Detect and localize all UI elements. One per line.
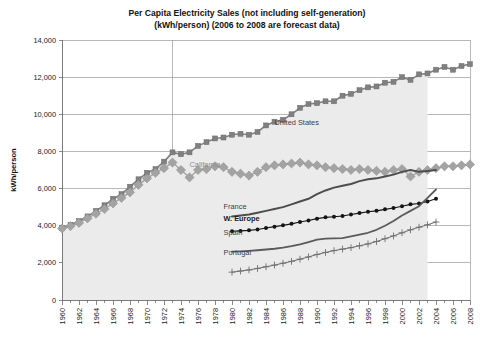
x-tick-label: 2004 [432,308,441,324]
data-point-united-states [204,140,209,145]
x-tick-label: 1982 [245,308,254,324]
series-label-w-europe: W. Europe [224,214,260,223]
data-point-united-states [425,71,430,76]
data-point-w-europe [392,206,396,210]
data-point-united-states [298,105,303,110]
data-point-united-states [238,131,243,136]
data-point-united-states [306,102,311,107]
chart-container: Per Capita Electricity Sales (not includ… [0,0,495,344]
data-point-w-europe [400,204,404,208]
data-point-united-states [255,129,260,134]
data-point-united-states [179,152,184,157]
x-tick-label: 1964 [92,308,101,324]
y-tick-label: 2,000 [38,258,57,267]
data-point-united-states [383,80,388,85]
x-tick-label: 1970 [143,308,152,324]
data-point-w-europe [273,225,277,229]
series-label-spain: Spain [224,228,243,237]
x-tick-label: 1998 [381,308,390,324]
y-tick-label: 4,000 [38,221,57,230]
data-point-united-states [417,72,422,77]
data-point-w-europe [349,213,353,217]
x-tick-label: 1996 [364,308,373,324]
y-tick-label: 6,000 [38,184,57,193]
data-point-united-states [247,132,252,137]
x-tick-label: 1992 [330,308,339,324]
data-point-w-europe [375,209,379,213]
x-tick-label: 1974 [177,308,186,324]
data-point-united-states [391,79,396,84]
data-point-united-states [323,99,328,104]
data-point-united-states [357,88,362,93]
x-tick-label: 1966 [109,308,118,324]
data-point-w-europe [409,202,413,206]
x-tick-label: 1972 [160,308,169,324]
y-axis-title: kWh/person [9,148,18,192]
data-point-w-europe [315,217,319,221]
x-tick-label: 1962 [75,308,84,324]
y-tick-label: 14,000 [33,36,56,45]
data-point-united-states [366,85,371,90]
x-tick-label: 1968 [126,308,135,324]
y-tick-label: 8,000 [38,147,57,156]
chart-title: Per Capita Electricity Sales (not includ… [129,8,366,18]
x-tick-label: 1976 [194,308,203,324]
data-point-united-states [459,64,464,69]
data-point-united-states [442,64,447,69]
data-point-united-states [374,84,379,89]
series-label-portugal: Portugal [224,248,252,257]
data-point-united-states [170,150,175,155]
data-point-united-states [213,136,218,141]
data-point-w-europe [247,228,251,232]
data-point-united-states [434,67,439,72]
chart-subtitle: (kWh/person) (2006 to 2008 are forecast … [154,20,339,30]
data-point-united-states [400,75,405,80]
data-point-w-europe [383,207,387,211]
y-tick-label: 12,000 [33,73,56,82]
data-point-w-europe [358,211,362,215]
data-point-w-europe [332,215,336,219]
x-tick-label: 2008 [466,308,475,324]
data-point-w-europe [264,226,268,230]
x-tick-label: 1994 [347,308,356,324]
x-tick-label: 2000 [398,308,407,324]
x-tick-label: 1984 [262,308,271,324]
data-point-united-states [332,99,337,104]
x-tick-label: 2006 [449,308,458,324]
y-tick-label: 0 [52,296,56,305]
data-point-united-states [264,123,269,128]
data-point-united-states [349,91,354,96]
data-point-w-europe [290,222,294,226]
x-tick-label: 1978 [211,308,220,324]
data-point-w-europe [256,227,260,231]
data-point-w-europe [366,210,370,214]
data-point-united-states [230,132,235,137]
data-point-united-states [451,67,456,72]
data-point-united-states [221,135,226,140]
series-label-united-states: United States [275,118,320,127]
data-point-w-europe [341,214,345,218]
series-label-california: California [190,160,222,169]
data-point-united-states [408,77,413,82]
x-tick-label: 1960 [58,308,67,324]
y-tick-label: 10,000 [33,110,56,119]
per-capita-electricity-sales-chart: Per Capita Electricity Sales (not includ… [0,0,495,344]
x-tick-label: 1980 [228,308,237,324]
series-label-france: France [224,202,247,211]
data-point-united-states [340,93,345,98]
x-tick-label: 1988 [296,308,305,324]
data-point-w-europe [434,197,438,201]
x-tick-label: 2002 [415,308,424,324]
x-tick-label: 1990 [313,308,322,324]
data-point-w-europe [307,219,311,223]
data-point-w-europe [298,220,302,224]
x-tick-label: 1986 [279,308,288,324]
data-point-united-states [468,62,473,67]
data-point-united-states [196,143,201,148]
data-point-united-states [315,101,320,106]
data-point-united-states [289,112,294,117]
data-point-w-europe [281,223,285,227]
data-point-united-states [187,150,192,155]
data-point-w-europe [324,215,328,219]
